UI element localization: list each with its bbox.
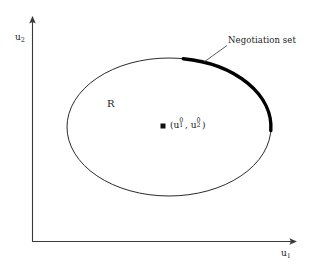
point-label-subscript-second: 2 — [196, 122, 200, 128]
point-label-comma: , — [185, 120, 188, 130]
point-label-close-paren: ) — [202, 120, 206, 130]
point-label-indices-second: 02 — [196, 119, 202, 128]
axis-label-x: u1 — [281, 249, 291, 259]
point-label-subscript-first: 1 — [179, 122, 183, 128]
negotiation-set-figure: u2 u1 R (u01, u02) Negotiation set — [0, 0, 321, 267]
negotiation-set-annotation-label: Negotiation set — [228, 36, 296, 45]
disagreement-point-marker — [161, 124, 166, 129]
axis-label-x-subscript: 1 — [287, 252, 291, 260]
annotation-leader-line — [204, 46, 227, 63]
region-label-r: R — [107, 99, 115, 109]
axis-label-y-subscript: 2 — [21, 36, 25, 44]
disagreement-point-label: (u01, u02) — [170, 119, 206, 130]
axis-label-y: u2 — [15, 33, 25, 43]
point-label-indices-first: 01 — [179, 119, 185, 128]
